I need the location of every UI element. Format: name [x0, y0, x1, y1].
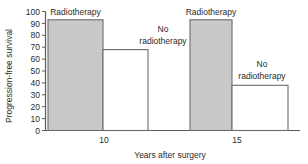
y-tick-label-90: 90	[31, 19, 41, 29]
bar-label-radiotherapy-10: Radiotherapy	[50, 7, 101, 17]
bar-label-no-radiotherapy-15-line1: No	[257, 59, 268, 69]
y-axis-title: Progression-free survival	[4, 29, 14, 123]
y-tick-label-30: 30	[31, 90, 41, 100]
y-tick-label-10: 10	[31, 114, 41, 124]
bar-label-no-radiotherapy-10-line2: radiotherapy	[139, 36, 187, 46]
y-tick-label-40: 40	[31, 78, 41, 88]
y-tick-label-60: 60	[31, 54, 41, 64]
x-axis-title: Years after surgery	[134, 150, 206, 160]
bar-no-radiotherapy-15	[232, 85, 288, 130]
x-tick-label-15: 15	[232, 135, 242, 145]
bar-label-no-radiotherapy-10-line1: No	[158, 24, 169, 34]
y-axis-ticks: 100 90 80 70 60 50 40 30 20 10 0	[26, 7, 46, 136]
y-tick-label-50: 50	[31, 66, 41, 76]
y-tick-label-70: 70	[31, 42, 41, 52]
y-tick-label-20: 20	[31, 102, 41, 112]
bar-radiotherapy-15	[190, 20, 232, 131]
y-tick-label-0: 0	[35, 126, 40, 136]
bar-radiotherapy-10	[48, 20, 103, 131]
bar-label-no-radiotherapy-15-line2: radiotherapy	[238, 71, 286, 81]
y-tick-label-80: 80	[31, 30, 41, 40]
y-tick-label-100: 100	[26, 7, 40, 17]
bar-no-radiotherapy-10	[103, 50, 148, 131]
bar-label-radiotherapy-15: Radiotherapy	[186, 7, 237, 17]
chart-container: Progression-free survival 100 90 80 70 6…	[0, 0, 308, 164]
x-tick-label-10: 10	[99, 135, 109, 145]
